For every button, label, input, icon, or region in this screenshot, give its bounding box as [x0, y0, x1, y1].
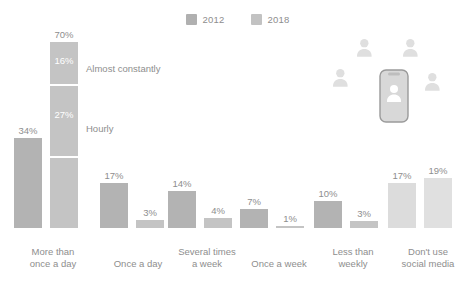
- bar-2012-several-times-a-week: [168, 191, 196, 228]
- chart-canvas: 2012 2018 34% 27% 16% 70%: [0, 0, 475, 282]
- bar-value-2012-once-a-week: 7%: [240, 197, 268, 207]
- bar-group-several-times-a-week: 14% 4%: [166, 42, 246, 228]
- bar-value-2012-once-a-day: 17%: [100, 171, 128, 181]
- bar-value-2012-several-times-a-week: 14%: [168, 179, 196, 189]
- bar-2018-dont-use-social-media: [424, 178, 452, 228]
- bar-2018-more-than-once-a-day-stack: 27% 16%: [50, 42, 78, 228]
- bar-2012-dont-use-social-media: [388, 183, 416, 228]
- bar-2018-once-a-week: [276, 226, 304, 228]
- xaxis-label-dont-use-social-media: Don't use social media: [382, 246, 474, 270]
- stack-segment-hourly: 27%: [50, 86, 78, 156]
- bar-group-once-a-week: 7% 1%: [238, 42, 318, 228]
- stack-segment-almost-constantly-label: 16%: [50, 56, 78, 66]
- person-icon: [425, 73, 440, 91]
- smartphone-icon: [380, 70, 408, 122]
- stack-segment-bottom: [50, 158, 78, 228]
- bar-2012-once-a-week: [240, 209, 268, 228]
- bar-value-2018-once-a-week: 1%: [276, 214, 304, 224]
- bar-value-2012-more-than-once-a-day: 34%: [14, 126, 42, 136]
- bar-2018-several-times-a-week: [204, 218, 232, 228]
- bar-group-more-than-once-a-day: 34% 27% 16% 70%: [12, 42, 92, 228]
- bar-value-2018-less-than-weekly: 3%: [350, 209, 378, 219]
- bar-2012-more-than-once-a-day: [14, 138, 42, 228]
- bar-value-2018-several-times-a-week: 4%: [204, 206, 232, 216]
- bar-2018-once-a-day: [136, 220, 164, 228]
- bar-2012-less-than-weekly: [314, 201, 342, 228]
- bar-value-2018-more-than-once-a-day: 70%: [50, 30, 78, 40]
- stack-segment-hourly-label: 27%: [50, 110, 78, 120]
- bar-value-2018-once-a-day: 3%: [136, 208, 164, 218]
- stack-segment-almost-constantly: 16%: [50, 42, 78, 84]
- person-icon: [403, 39, 418, 57]
- social-network-illustration: [330, 34, 458, 134]
- bar-2012-once-a-day: [100, 183, 128, 228]
- bar-value-2012-dont-use-social-media: 17%: [388, 171, 416, 181]
- bar-2018-less-than-weekly: [350, 221, 378, 228]
- person-icon: [357, 39, 372, 57]
- person-icon: [333, 69, 348, 87]
- illustration-svg: [330, 34, 458, 134]
- bar-value-2012-less-than-weekly: 10%: [314, 189, 342, 199]
- bar-value-2018-dont-use-social-media: 19%: [424, 166, 452, 176]
- xaxis-label-more-than-once-a-day: More than once a day: [8, 246, 98, 270]
